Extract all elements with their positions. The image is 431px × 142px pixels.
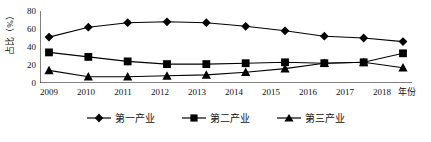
y-tick-label-80: 80: [18, 7, 36, 16]
data-point: [399, 49, 407, 57]
x-tick-label-2013: 2013: [177, 88, 217, 97]
y-tick-label-0: 0: [18, 79, 36, 88]
plot-area: [40, 11, 412, 83]
data-point: [45, 33, 54, 42]
series-triangle: [44, 58, 407, 81]
x-tick-label-2017: 2017: [325, 88, 365, 97]
y-tick-label-20: 20: [18, 61, 36, 70]
plot-svg: [40, 11, 412, 83]
data-point: [399, 37, 408, 46]
triangle-marker-icon: [276, 112, 302, 124]
data-point: [124, 58, 132, 66]
axis-lines: [40, 11, 412, 83]
chart-legend: 第一产业 第二产业 第三产业: [0, 112, 431, 124]
legend-label-tertiary-industry: 第三产业: [305, 113, 345, 124]
x-tick-label-2018: 2018: [362, 88, 402, 97]
legend-label-secondary-industry: 第二产业: [210, 113, 250, 124]
data-point: [45, 49, 53, 57]
x-tick-label-2015: 2015: [251, 88, 291, 97]
data-point: [320, 32, 329, 41]
data-point: [84, 53, 92, 61]
legend-item-primary-industry[interactable]: 第一产业: [86, 112, 155, 124]
x-axis-title: 年份: [398, 88, 416, 97]
y-tick-label-60: 60: [18, 25, 36, 34]
data-point: [163, 17, 172, 26]
y-tick-label-40: 40: [18, 43, 36, 52]
series-diamond: [45, 17, 408, 46]
series-square: [45, 49, 407, 69]
x-tick-label-2016: 2016: [288, 88, 328, 97]
data-point: [84, 23, 93, 32]
data-point: [202, 60, 210, 68]
data-point: [123, 18, 132, 27]
x-tick-label-2012: 2012: [140, 88, 180, 97]
x-tick-label-2010: 2010: [66, 88, 106, 97]
legend-item-secondary-industry[interactable]: 第二产业: [181, 112, 250, 124]
data-point: [242, 59, 250, 67]
data-point: [359, 34, 368, 43]
data-point: [241, 22, 250, 31]
x-tick-label-2011: 2011: [103, 88, 143, 97]
x-tick-label-2014: 2014: [214, 88, 254, 97]
x-tick-label-2009: 2009: [29, 88, 69, 97]
chart-figure: 占比（%） 80 60 40 20 0 2009 2010 2011 2012 …: [0, 0, 431, 142]
diamond-marker-icon: [86, 112, 112, 124]
legend-label-primary-industry: 第一产业: [115, 113, 155, 124]
data-point: [202, 18, 211, 27]
y-axis-title: 占比（%）: [5, 5, 15, 61]
square-marker-icon: [181, 112, 207, 124]
data-point: [281, 26, 290, 35]
data-point: [44, 66, 53, 75]
legend-item-tertiary-industry[interactable]: 第三产业: [276, 112, 345, 124]
data-point: [163, 60, 171, 68]
